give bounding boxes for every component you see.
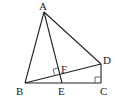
segment-AB xyxy=(25,12,44,83)
right-angle-marker-C xyxy=(95,77,101,83)
label-E: E xyxy=(58,85,65,97)
label-D: D xyxy=(103,54,111,66)
label-C: C xyxy=(100,85,107,97)
segment-AD xyxy=(44,12,101,64)
geometry-diagram: A B C D E F xyxy=(0,0,115,101)
right-angle-marker-F xyxy=(53,68,58,75)
segment-AE xyxy=(44,12,62,83)
label-B: B xyxy=(16,85,23,97)
label-A: A xyxy=(39,0,47,12)
label-F: F xyxy=(61,63,67,75)
